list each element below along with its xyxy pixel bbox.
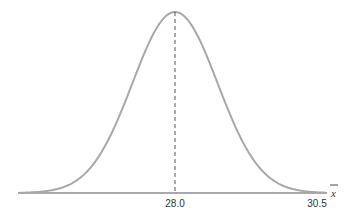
normal-curve (20, 12, 326, 193)
tick-label-right: 30.5 (307, 198, 327, 209)
chart: 28.0 30.5 x (0, 0, 349, 217)
axis-variable-label: x (330, 187, 336, 199)
tick-label-mean: 28.0 (165, 198, 185, 209)
